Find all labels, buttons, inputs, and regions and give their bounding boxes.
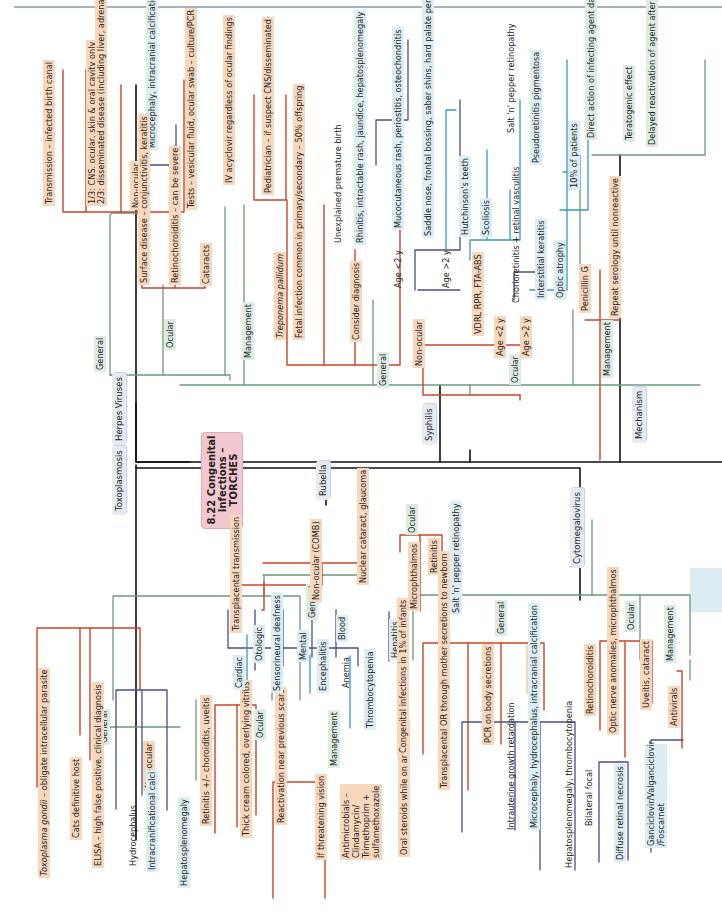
herpes-pediatrician: Pediatrician – if suspect CNS/disseminat… — [262, 17, 274, 195]
toxo-management: Management — [328, 710, 340, 768]
cmv-antivirals: Antivirals — [668, 686, 680, 728]
herpes-retinochoroiditis: Retinochoroiditis – can be severe — [169, 146, 181, 285]
cmv-congenital-infections: Congenital infections in 1% of infants — [397, 598, 409, 755]
mechanism-teratogenic: Teratogenic effect — [623, 65, 635, 142]
rubella-salt-pepper: Salt 'n' pepper retinopathy — [450, 501, 462, 615]
mechanism-delayed-reactivation: Delayed reactivation of agent after birt… — [646, 0, 658, 147]
rubella-transplacental: Transplacental transmission — [230, 515, 242, 633]
category-herpes-viruses: Herpes Viruses — [112, 373, 126, 445]
syphilis-age-lt2: Age <2 y — [392, 248, 404, 290]
syphilis-chorioretinitis: Chorioretinitis + retinal vasculitis — [510, 165, 522, 305]
syphilis-ocular: Ocular — [509, 354, 521, 385]
syphilis-ten-percent: 10% of patients — [568, 121, 580, 190]
cmv-diffuse-necrosis: Diffuse retinal necrosis — [614, 764, 626, 862]
rubella-thrombocytopenia: Thrombocytopenia — [364, 649, 376, 730]
syphilis-repeat-serology: Repeat serology until nonreactive — [609, 176, 621, 318]
herpes-tests: Tests – vesicular fluid, ocular swab – c… — [185, 8, 197, 210]
syphilis-organism: Treponema pallidum — [274, 252, 286, 340]
syphilis-interstitial-keratitis: Interstitial keratitis — [535, 219, 547, 300]
syphilis-pseudoretinitis: Pseudoretinitis pigmentosa — [530, 50, 542, 165]
syphilis-mucocutaneous: Mucocutaneous rash, periostitis, osteoch… — [392, 27, 404, 230]
herpes-iv-acyclovir: IV acyclovir regardless of ocular findin… — [223, 15, 235, 185]
rubella-anemia: Anemia — [340, 655, 352, 690]
syphilis-ocular-age-gt2: Age >2 y — [520, 316, 532, 358]
herpes-general: General — [94, 336, 106, 372]
category-syphilis: Syphilis — [422, 404, 436, 445]
toxo-cats-host: Cats definitive host — [70, 757, 82, 840]
rubella-ocular: Ocular — [406, 504, 418, 535]
rubella-microphthalmos: Microphthalmos — [408, 542, 420, 611]
herpes-surface-disease: Surface disease – conjunctivitis, kerati… — [138, 114, 150, 285]
syphilis-hutchinsons-teeth: Hutchinson's teeth — [459, 156, 471, 237]
cmv-uveitis-cataract: Uveitis, cataract — [640, 639, 652, 710]
rubella-nuclear-cataract: Nuclear cataract, glaucoma — [357, 468, 369, 585]
cmv-general: General — [495, 600, 507, 636]
syphilis-rhinitis: Rhinitis, intractable rash, jaundice, he… — [354, 10, 366, 245]
herpes-cataracts: Cataracts — [200, 243, 212, 286]
cmv-pcr: PCR on body secretions — [482, 644, 494, 745]
toxo-elisa: ELISA – high false positive, clinical di… — [92, 682, 104, 868]
toxo-organism: Toxoplasma gondii – obligate intracellul… — [38, 668, 50, 878]
syphilis-salt-pepper: Salt 'n' pepper retinopathy — [505, 21, 517, 135]
herpes-transmission: Transmission – infected birth canal — [43, 60, 55, 206]
category-rubella: Rubella — [316, 461, 330, 500]
toxo-retinitis: Retinitis +/– choroiditis, uveitis — [200, 695, 212, 826]
toxo-hepatosplenomegaly: Hepatosplenomegaly — [178, 797, 190, 888]
syphilis-management: Management — [601, 320, 613, 378]
herpes-management: Management — [242, 302, 254, 360]
category-cytomegalovirus: Cytomegalovirus — [570, 488, 584, 568]
syphilis-consider-diagnosis: Consider diagnosis — [350, 261, 362, 342]
toxo-hydrocephalus: Hydrocephalus — [127, 803, 139, 868]
category-mechanism: Mechanism — [632, 387, 646, 443]
center-node-title: 8.22 Congenital Infections – TORCHES — [206, 435, 239, 525]
toxo-reactivation: Reactivation near previous scars — [275, 687, 287, 825]
syphilis-ocular-age-lt2: Age <2 y — [494, 316, 506, 358]
category-toxoplasmosis: Toxoplasmosis — [112, 446, 126, 515]
rubella-non-ocular: Non-ocular (COMB) — [310, 519, 322, 602]
toxo-thick-cream: Thick cream colored, overlying vitritis — [240, 680, 252, 838]
cmv-bilateral-focal: Bilateral focal — [583, 768, 595, 828]
cmv-ocular: Ocular — [625, 601, 637, 632]
toxo-antimicrobials: Antimicrobials – Clindamycin/ Trimethopr… — [340, 784, 382, 860]
cmv-microcephaly: Microcephaly, hydrocephalus, intracrania… — [528, 603, 540, 830]
syphilis-fetal-infection: Fetal infection common in primary/second… — [293, 84, 305, 340]
rubella-otologic: Otologic — [253, 625, 265, 663]
rubella-cardiac: Cardiac — [233, 655, 245, 690]
toxo-intracranial-calci: Intracranificational calci — [146, 770, 158, 872]
syphilis-age-gt2: Age >2 y — [440, 248, 452, 290]
syphilis-penicillin: Penicillin G — [579, 264, 591, 313]
cmv-optic-nerve: Optic nerve anomalies, microphthalmos — [607, 567, 619, 735]
syphilis-general: General — [377, 352, 389, 388]
syphilis-optic-atrophy: Optic atrophy — [554, 240, 566, 300]
syphilis-non-ocular: Non-ocular — [413, 319, 425, 368]
syphilis-scoliosis: Scoliosis — [480, 198, 492, 237]
herpes-ocular: Ocular — [164, 319, 176, 350]
cmv-transplacental: Transplacental OR through mother secreti… — [438, 551, 450, 790]
toxo-if-threatening: If threatening vision — [315, 774, 327, 860]
cmv-hepatosplenomegaly: Hepatosplenomegaly, thrombocytopenia — [563, 699, 575, 870]
rubella-deafness: Sensorineural deafness — [271, 593, 283, 693]
rubella-blood: Blood — [336, 615, 348, 642]
cmv-drugs: Ganciclovir/Valganciclovir /Foscarnet — [645, 744, 667, 848]
rubella-mental: Mental — [297, 630, 309, 662]
syphilis-saddle-nose: Saddle nose, frontal bossing, saber shin… — [422, 0, 434, 238]
rubella-encephalitis: Encephalitis — [317, 639, 329, 693]
mechanism-direct-action: Direct action of infecting agent damages… — [585, 0, 597, 140]
cmv-retinochoroiditis: Retinochoroiditis — [584, 644, 596, 716]
herpes-two-third: 2/3: disseminated disease (including liv… — [95, 0, 107, 206]
toxo-ocular: Ocular — [254, 709, 266, 740]
syphilis-vdrl: VDRL RPR, FTA-ABS — [472, 252, 484, 336]
syphilis-premature-birth: Unexplained premature birth — [332, 122, 344, 245]
cmv-iugr: Intrauterine growth retardation — [505, 700, 517, 832]
cmv-management: Management — [664, 605, 676, 663]
